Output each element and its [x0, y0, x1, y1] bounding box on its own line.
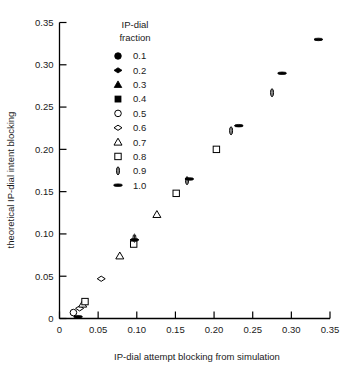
legend-item-label: 0.7 [133, 137, 146, 148]
x-tick-label: 0.25 [243, 324, 262, 335]
legend-item-label: 0.1 [133, 50, 146, 61]
legend-item-label: 0.4 [133, 93, 146, 104]
data-point [213, 146, 219, 152]
legend-item: 1.0 [114, 180, 147, 191]
scatter-plot-figure: 00.050.100.150.200.250.300.35 00.050.100… [0, 0, 342, 370]
y-tick-label: 0.05 [35, 271, 54, 282]
data-point [185, 178, 194, 181]
legend-item: 0.9 [117, 165, 147, 176]
legend-title-line-2: fraction [119, 32, 150, 43]
legend-item: 0.8 [115, 151, 146, 162]
y-tick-label: 0.35 [35, 17, 54, 28]
ticks-group [60, 23, 331, 319]
marker-open-circle [115, 110, 122, 117]
legend-item: 0.6 [114, 122, 146, 133]
legend-item: 0.7 [114, 137, 146, 148]
x-tick-label: 0 [57, 324, 62, 335]
x-tick-label: 0.05 [89, 324, 108, 335]
marker-horizontal-dash [114, 184, 123, 187]
legend-item-label: 0.8 [133, 151, 146, 162]
data-point [278, 72, 287, 75]
x-tick-label: 0.35 [321, 324, 340, 335]
data-point [173, 190, 179, 196]
y-tick-label: 0.25 [35, 101, 54, 112]
marker-filled-square [115, 96, 121, 102]
x-tick-label: 0.10 [128, 324, 147, 335]
x-tick-label: 0.30 [282, 324, 301, 335]
marker-filled-diamond [114, 68, 122, 73]
data-point [230, 127, 233, 135]
y-tick-label: 0.20 [35, 144, 54, 155]
y-axis-tick-labels: 00.050.100.150.200.250.300.35 [35, 17, 54, 324]
marker-open-diamond [114, 125, 122, 130]
y-tick-label: 0.30 [35, 59, 54, 70]
marker-narrow-oval [117, 167, 120, 175]
marker-filled-circle [115, 53, 122, 60]
marker-filled-triangle [114, 81, 122, 88]
x-axis-title: IP-dial attempt blocking from simulation [114, 351, 280, 362]
data-points-group [70, 38, 323, 318]
legend-item: 0.2 [114, 65, 146, 76]
data-point [153, 211, 161, 218]
marker-open-triangle [114, 138, 122, 145]
data-point [234, 124, 243, 127]
legend-item-label: 0.3 [133, 79, 146, 90]
marker-open-square [115, 153, 121, 159]
legend-title-line-1: IP-dial [122, 19, 149, 30]
legend-item: 0.1 [115, 50, 147, 61]
y-axis-title: theoretical IP-dial intent blocking [5, 112, 16, 249]
y-tick-label: 0.15 [35, 186, 54, 197]
legend-item: 0.5 [115, 108, 147, 119]
legend-item: 0.4 [115, 93, 146, 104]
y-tick-label: 0 [48, 313, 53, 324]
data-point [74, 316, 83, 319]
legend-item-label: 0.2 [133, 65, 146, 76]
x-tick-label: 0.15 [166, 324, 185, 335]
legend-item-label: 0.6 [133, 122, 146, 133]
legend-item-label: 0.9 [133, 165, 146, 176]
data-point [97, 276, 105, 281]
data-point [70, 309, 77, 316]
axes-group [60, 23, 331, 319]
data-point [314, 38, 323, 41]
legend-item-label: 1.0 [133, 180, 146, 191]
x-axis-tick-labels: 00.050.100.150.200.250.300.35 [57, 324, 339, 335]
data-point [130, 239, 139, 242]
legend-item-label: 0.5 [133, 108, 146, 119]
data-point [116, 252, 124, 259]
data-point [82, 298, 88, 304]
legend-item: 0.3 [114, 79, 146, 90]
data-point [271, 89, 274, 97]
legend: 0.10.20.30.40.50.60.70.80.91.0 [114, 50, 147, 190]
plot-canvas: 00.050.100.150.200.250.300.35 00.050.100… [0, 0, 342, 370]
x-tick-label: 0.20 [205, 324, 224, 335]
y-tick-label: 0.10 [35, 228, 54, 239]
